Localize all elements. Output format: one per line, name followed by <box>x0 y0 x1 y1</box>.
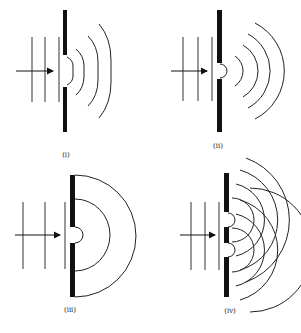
diffracted-wavefront <box>75 227 83 243</box>
slit2-wavefront <box>240 200 278 300</box>
panel-iii: (iii) <box>15 175 136 314</box>
slit1-wavefront <box>228 213 235 227</box>
diffracted-wavefront <box>220 64 227 78</box>
diffracted-wavefront <box>88 36 98 106</box>
diffracted-wavefront <box>235 56 243 86</box>
diffracted-wavefront <box>243 45 258 97</box>
slit2-wavefront <box>250 188 301 312</box>
barrier-top <box>63 10 67 55</box>
barrier-bottom <box>63 87 67 132</box>
diffracted-wavefront <box>99 24 111 118</box>
barrier-top <box>224 173 229 212</box>
diffracted-wavefront <box>248 34 270 108</box>
slit1-wavefront <box>236 184 264 256</box>
diffracted-wavefront <box>75 199 110 271</box>
barrier-middle <box>224 227 229 243</box>
slit1-wavefront <box>240 170 278 270</box>
diffracted-wavefront <box>76 49 84 95</box>
barrier-bottom <box>70 243 75 297</box>
diffracted-wavefront <box>75 175 136 297</box>
diffracted-wavefront <box>67 57 73 85</box>
panel-label: (ii) <box>213 142 223 150</box>
panel-i: (i) <box>16 10 111 159</box>
barrier-top <box>70 175 75 227</box>
barrier-bottom <box>224 257 229 297</box>
slit2-wavefront <box>228 243 235 257</box>
barrier-top <box>217 10 222 63</box>
panel-label: (iv) <box>224 307 236 315</box>
panel-label: (iii) <box>64 306 76 314</box>
panel-label: (i) <box>62 151 70 159</box>
diffraction-diagram: (i) (ii) (iii) <box>0 0 301 333</box>
panel-iv: (iv) <box>180 158 301 315</box>
panel-ii: (ii) <box>171 10 284 150</box>
barrier-bottom <box>217 79 222 132</box>
